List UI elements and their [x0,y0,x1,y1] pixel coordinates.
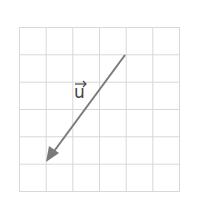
vector-grid-diagram [0,0,200,205]
vector-label: u [74,82,85,102]
grid [20,28,180,192]
vector-u-arrow [46,55,125,162]
